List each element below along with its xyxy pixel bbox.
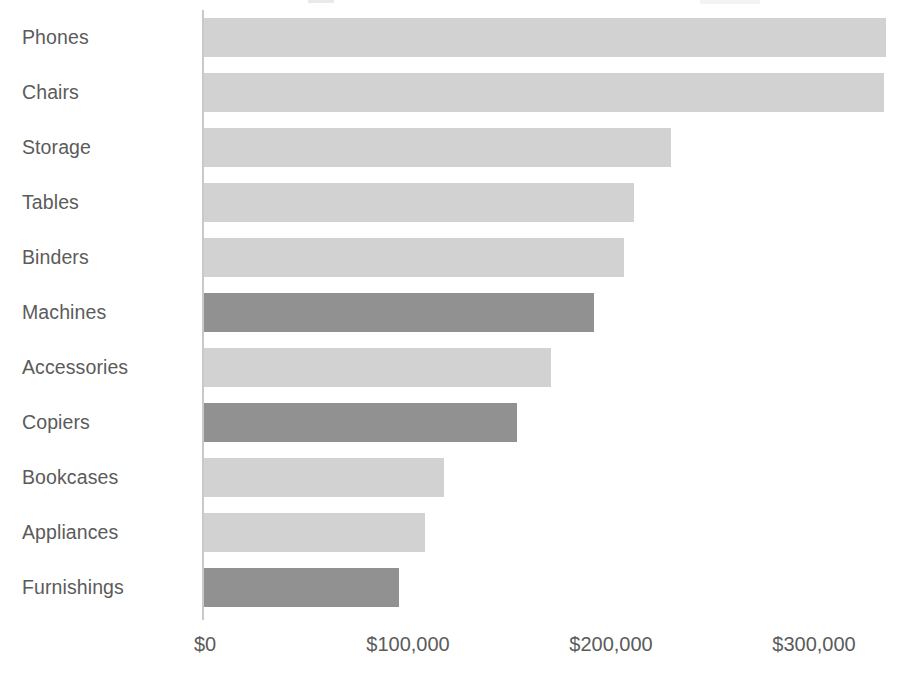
bar-phones[interactable] <box>204 18 886 57</box>
category-label-furnishings: Furnishings <box>0 560 186 615</box>
bar-track <box>204 505 903 560</box>
category-label-binders: Binders <box>0 230 186 285</box>
x-axis: $0$100,000$200,000$300,000 <box>0 625 903 695</box>
bar-copiers[interactable] <box>204 403 517 442</box>
bar-row: Accessories <box>0 340 903 395</box>
category-label-copiers: Copiers <box>0 395 186 450</box>
x-tick-label: $100,000 <box>366 633 449 656</box>
bar-track <box>204 120 903 175</box>
category-label-storage: Storage <box>0 120 186 175</box>
bar-row: Tables <box>0 175 903 230</box>
category-label-phones: Phones <box>0 10 186 65</box>
bar-chairs[interactable] <box>204 73 884 112</box>
category-label-accessories: Accessories <box>0 340 186 395</box>
category-label-bookcases: Bookcases <box>0 450 186 505</box>
bar-row: Bookcases <box>0 450 903 505</box>
x-tick-label: $300,000 <box>772 633 855 656</box>
bar-track <box>204 560 903 615</box>
plot-area: PhonesChairsStorageTablesBindersMachines… <box>0 0 903 625</box>
bar-row: Furnishings <box>0 560 903 615</box>
x-tick-label: $0 <box>194 633 216 656</box>
category-label-appliances: Appliances <box>0 505 186 560</box>
bar-track <box>204 175 903 230</box>
bar-bookcases[interactable] <box>204 458 444 497</box>
bar-accessories[interactable] <box>204 348 551 387</box>
bar-row: Storage <box>0 120 903 175</box>
bar-row: Appliances <box>0 505 903 560</box>
bar-row: Chairs <box>0 65 903 120</box>
bar-track <box>204 285 903 340</box>
bar-track <box>204 395 903 450</box>
bar-row: Phones <box>0 10 903 65</box>
bar-track <box>204 65 903 120</box>
bar-appliances[interactable] <box>204 513 425 552</box>
x-tick-label: $200,000 <box>569 633 652 656</box>
bar-track <box>204 230 903 285</box>
bar-track <box>204 450 903 505</box>
bar-track <box>204 340 903 395</box>
bar-chart: PhonesChairsStorageTablesBindersMachines… <box>0 0 903 695</box>
bar-row: Machines <box>0 285 903 340</box>
category-label-tables: Tables <box>0 175 186 230</box>
bar-row: Binders <box>0 230 903 285</box>
bar-machines[interactable] <box>204 293 594 332</box>
bar-tables[interactable] <box>204 183 634 222</box>
bar-track <box>204 10 903 65</box>
bar-furnishings[interactable] <box>204 568 399 607</box>
bar-row: Copiers <box>0 395 903 450</box>
category-label-chairs: Chairs <box>0 65 186 120</box>
bar-binders[interactable] <box>204 238 624 277</box>
bar-storage[interactable] <box>204 128 671 167</box>
category-label-machines: Machines <box>0 285 186 340</box>
